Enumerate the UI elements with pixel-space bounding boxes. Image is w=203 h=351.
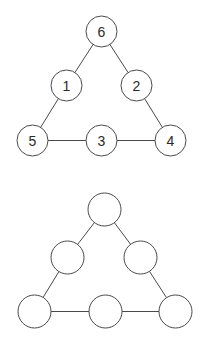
graph-node-bottom-mid[interactable]: 3 bbox=[86, 125, 117, 156]
graph-node-apex[interactable]: 6 bbox=[86, 16, 117, 47]
graph-node-left-mid[interactable] bbox=[51, 241, 84, 274]
node-circle[interactable] bbox=[89, 295, 122, 328]
graph-node-right-mid[interactable]: 2 bbox=[121, 70, 152, 101]
graph-node-apex[interactable] bbox=[88, 193, 121, 226]
graph-node-left-mid[interactable]: 1 bbox=[51, 70, 82, 101]
node-circle[interactable] bbox=[88, 193, 121, 226]
graph-node-bottom-mid[interactable] bbox=[89, 295, 122, 328]
node-circle[interactable] bbox=[51, 241, 84, 274]
triangle-graphs-figure: 612534 bbox=[0, 0, 203, 351]
node-label: 1 bbox=[63, 78, 71, 94]
graph-edge bbox=[110, 45, 128, 73]
graph-node-bottom-left[interactable] bbox=[18, 295, 51, 328]
graph-edge bbox=[43, 272, 59, 298]
node-label: 6 bbox=[98, 24, 106, 40]
node-circle[interactable] bbox=[159, 295, 192, 328]
node-circle[interactable] bbox=[18, 295, 51, 328]
node-label: 4 bbox=[167, 133, 175, 149]
graph-node-bottom-left[interactable]: 5 bbox=[17, 125, 48, 156]
graph-node-bottom-right[interactable] bbox=[159, 295, 192, 328]
graph-edge bbox=[149, 271, 166, 297]
graph-edge bbox=[114, 223, 130, 245]
graph-node-right-mid[interactable] bbox=[124, 241, 157, 274]
node-label: 3 bbox=[98, 133, 106, 149]
blank-triangle-graph bbox=[18, 193, 192, 328]
graph-edge bbox=[78, 223, 95, 245]
graph-node-bottom-right[interactable]: 4 bbox=[155, 125, 186, 156]
figure-root: 612534 bbox=[0, 0, 203, 351]
graph-edge bbox=[41, 99, 59, 128]
labeled-triangle-graph: 612534 bbox=[17, 16, 186, 156]
node-label: 2 bbox=[133, 78, 141, 94]
node-circle[interactable] bbox=[124, 241, 157, 274]
graph-edge bbox=[145, 99, 163, 128]
graph-edge bbox=[75, 45, 93, 73]
node-label: 5 bbox=[29, 133, 37, 149]
